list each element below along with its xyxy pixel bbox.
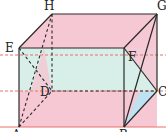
vertex-label-c: C — [158, 85, 166, 99]
vertex-label-g: G — [157, 0, 166, 13]
prism-diagram: H G E F D C A B — [0, 0, 166, 132]
right-outside-white — [158, 0, 166, 132]
vertex-label-a: A — [11, 128, 21, 132]
vertex-label-h: H — [44, 0, 54, 13]
vertex-label-f: F — [128, 50, 136, 64]
vertex-label-e: E — [5, 41, 14, 55]
vertex-label-d: D — [40, 85, 50, 99]
vertex-label-b: B — [119, 128, 128, 132]
